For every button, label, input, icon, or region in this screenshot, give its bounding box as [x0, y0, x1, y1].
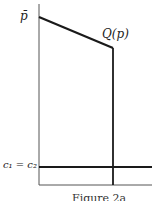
figure-caption: Figure 2a [72, 192, 126, 201]
p-bar-label: p̄ [20, 9, 28, 23]
cost-line-label: c₁ = c₂ [3, 159, 37, 170]
diagram-canvas [0, 0, 154, 201]
demand-curve-label: Q(p) [102, 27, 129, 41]
